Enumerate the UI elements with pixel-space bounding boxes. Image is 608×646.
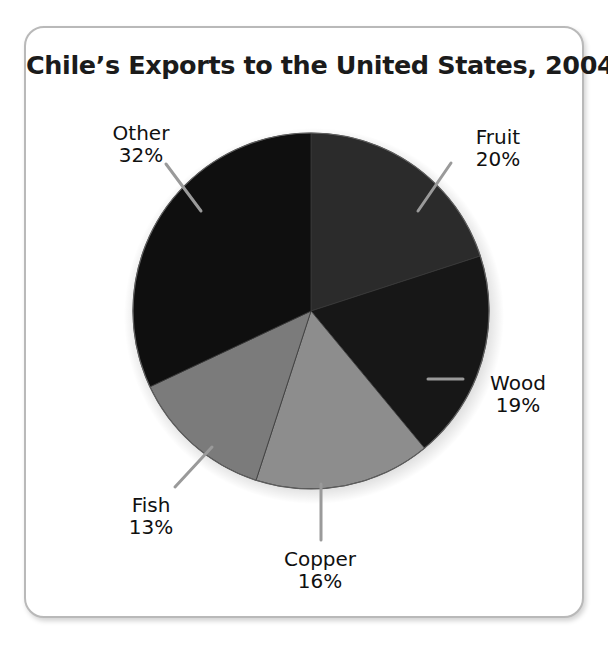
page-title: Chile’s Exports to the United States, 20…: [26, 50, 582, 80]
pie-label-fish-value: 13%: [105, 516, 197, 538]
pie-label-fish-name: Fish: [105, 494, 197, 516]
pie-label-copper-value: 16%: [255, 570, 385, 592]
pie-label-wood-name: Wood: [468, 372, 568, 394]
pie-label-fish: Fish 13%: [105, 494, 197, 539]
pie-label-fruit: Fruit 20%: [448, 126, 548, 171]
pie-label-other: Other 32%: [86, 122, 196, 167]
pie-label-fruit-value: 20%: [448, 148, 548, 170]
pie-label-wood: Wood 19%: [468, 372, 568, 417]
pie-label-wood-value: 19%: [468, 394, 568, 416]
pie-label-fruit-name: Fruit: [448, 126, 548, 148]
pie-label-other-name: Other: [86, 122, 196, 144]
pie-label-other-value: 32%: [86, 144, 196, 166]
pie-label-copper-name: Copper: [255, 548, 385, 570]
pie-label-copper: Copper 16%: [255, 548, 385, 593]
